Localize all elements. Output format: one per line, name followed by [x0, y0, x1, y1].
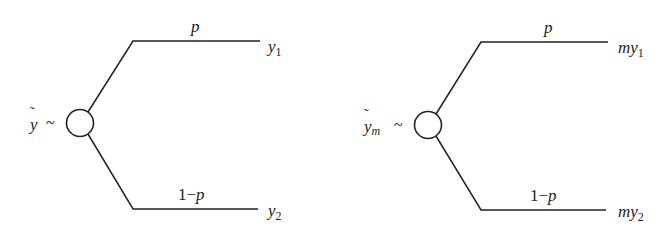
- lower-branch-left: [88, 134, 258, 209]
- chance-node-right: [415, 112, 442, 139]
- outcome-lower-right: my2: [618, 202, 644, 224]
- tree-left: y ˜ ~ p y1 1−p y2: [28, 17, 282, 223]
- lower-branch-right: [436, 136, 606, 210]
- diagram-canvas: y ˜ ~ p y1 1−p y2 ym ˜ ~ p my1 1−p my2: [0, 0, 672, 240]
- prob-label-lower-left: 1−p: [178, 185, 205, 204]
- tree-right: ym ˜ ~ p my1 1−p my2: [362, 18, 644, 224]
- tilde-accent-right: ˜: [364, 107, 369, 122]
- upper-branch-left: [88, 41, 260, 112]
- prob-label-upper-left: p: [190, 17, 200, 36]
- upper-branch-right: [436, 42, 608, 114]
- outcome-lower-left: y2: [266, 201, 282, 223]
- distributed-as-left: ~: [46, 114, 55, 131]
- prob-label-lower-right: 1−p: [530, 186, 557, 205]
- chance-node-left: [67, 110, 94, 137]
- outcome-upper-left: y1: [266, 37, 282, 59]
- tilde-accent-left: ˜: [30, 105, 35, 120]
- prob-label-upper-right: p: [543, 18, 553, 37]
- distributed-as-right: ~: [394, 116, 403, 133]
- outcome-upper-right: my1: [618, 38, 644, 60]
